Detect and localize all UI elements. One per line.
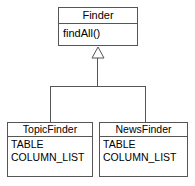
class-name-finder: Finder (59, 8, 137, 24)
class-box-topicfinder[interactable]: TopicFinder TABLE COLUMN_LIST (7, 122, 93, 177)
class-member: COLUMN_LIST (11, 151, 92, 164)
class-box-newsfinder[interactable]: NewsFinder TABLE COLUMN_LIST (99, 122, 188, 177)
class-member: COLUMN_LIST (103, 151, 187, 164)
class-name-topicfinder: TopicFinder (8, 123, 92, 137)
generalization-branch-newsfinder (145, 86, 146, 122)
class-members-topicfinder: TABLE COLUMN_LIST (8, 137, 92, 176)
uml-class-diagram: Finder findAll() TopicFinder TABLE COLUM… (0, 0, 195, 186)
class-member: findAll() (63, 26, 137, 40)
generalization-arrowhead-icon (91, 46, 105, 59)
class-member: TABLE (103, 138, 187, 151)
class-box-finder[interactable]: Finder findAll() (58, 7, 138, 46)
class-member: TABLE (11, 138, 92, 151)
generalization-branch-topicfinder (50, 86, 51, 122)
class-members-newsfinder: TABLE COLUMN_LIST (100, 137, 187, 176)
generalization-branch-bar (50, 86, 146, 87)
class-members-finder: findAll() (59, 24, 137, 45)
class-name-newsfinder: NewsFinder (100, 123, 187, 137)
generalization-stem (97, 58, 98, 87)
